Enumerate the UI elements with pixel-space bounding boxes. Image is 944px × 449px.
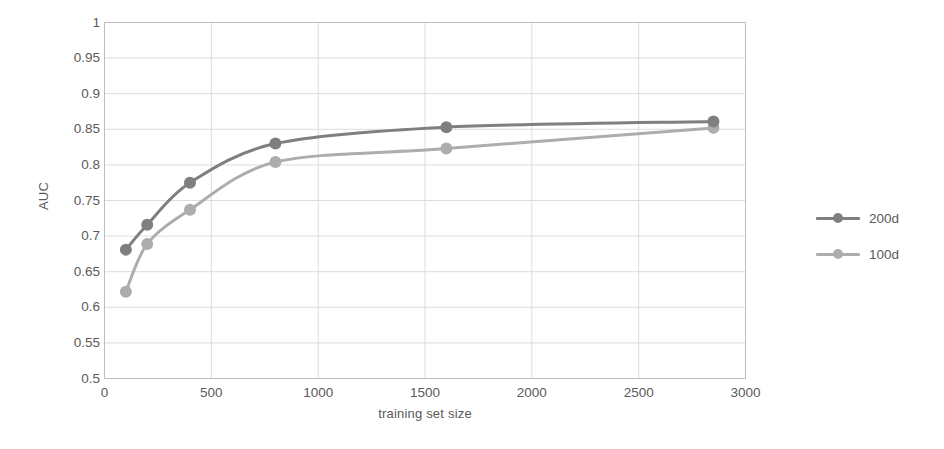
data-point-100d-undefined [120, 286, 132, 298]
chart-container: AUC 0.50.550.60.650.70.750.80.850.90.951… [0, 0, 944, 449]
legend-label: 200d [869, 211, 899, 226]
x-tick-label: 0 [70, 385, 140, 400]
legend-marker-icon [816, 247, 860, 261]
data-point-100d-undefined [184, 204, 196, 216]
legend-marker-icon [816, 211, 860, 225]
data-point-100d-undefined [269, 156, 281, 168]
y-tick-label: 0.8 [54, 158, 100, 172]
y-tick-label: 0.85 [54, 122, 100, 136]
legend-dot-icon [833, 213, 843, 223]
y-tick-label: 1 [54, 16, 100, 30]
data-point-200d-undefined [269, 138, 281, 150]
y-axis-tick-labels: 0.50.550.60.650.70.750.80.850.90.951 [44, 0, 100, 449]
legend-item-100d[interactable]: 100d [816, 236, 936, 272]
y-tick-label: 0.55 [54, 336, 100, 350]
chart-legend: 200d100d [816, 200, 936, 272]
y-tick-label: 0.5 [54, 372, 100, 386]
x-tick-label: 2500 [604, 385, 674, 400]
plot-area [0, 0, 944, 449]
x-tick-label: 1000 [283, 385, 353, 400]
legend-dot-icon [833, 249, 843, 259]
x-axis-title: training set size [305, 406, 545, 421]
data-point-200d-undefined [440, 121, 452, 133]
y-tick-label: 0.65 [54, 265, 100, 279]
data-point-200d-undefined [707, 115, 719, 127]
y-tick-label: 0.95 [54, 51, 100, 65]
y-tick-label: 0.75 [54, 194, 100, 208]
x-tick-label: 3000 [711, 385, 781, 400]
series-200d [120, 115, 720, 255]
series-line-100d [126, 128, 714, 292]
legend-item-200d[interactable]: 200d [816, 200, 936, 236]
data-point-200d-undefined [120, 244, 132, 256]
y-tick-label: 0.9 [54, 87, 100, 101]
data-point-200d-undefined [141, 219, 153, 231]
x-tick-label: 2000 [497, 385, 567, 400]
data-point-200d-undefined [184, 177, 196, 189]
series-line-200d [126, 121, 714, 249]
y-tick-label: 0.7 [54, 229, 100, 243]
data-point-100d-undefined [440, 143, 452, 155]
y-tick-label: 0.6 [54, 300, 100, 314]
series-layer [120, 115, 720, 297]
data-point-100d-undefined [141, 238, 153, 250]
legend-label: 100d [869, 247, 899, 262]
x-tick-label: 1500 [390, 385, 460, 400]
x-tick-label: 500 [176, 385, 246, 400]
